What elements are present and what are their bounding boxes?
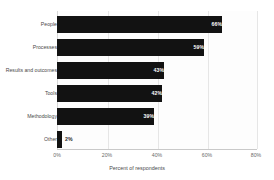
bar-series: People 66% Processes 59% Results and out… bbox=[0, 0, 274, 180]
bar-row: Other 2% bbox=[0, 131, 274, 148]
x-tick-20: 20% bbox=[102, 152, 112, 158]
category-label-methodology: Methodology bbox=[27, 108, 57, 125]
bar-value-processes: 59% bbox=[57, 39, 208, 56]
bar-row: Methodology 39% bbox=[0, 108, 274, 125]
bar-value-tools: 42% bbox=[57, 85, 166, 102]
bar-row: Tools 42% bbox=[0, 85, 274, 102]
category-label-tools: Tools bbox=[45, 85, 57, 102]
x-tick-40: 40% bbox=[152, 152, 162, 158]
category-label-processes: Processes bbox=[33, 39, 57, 56]
bar-row: Results and outcomes 43% bbox=[0, 62, 274, 79]
bar-chart: People 66% Processes 59% Results and out… bbox=[0, 0, 274, 180]
category-label-results-and-outcomes: Results and outcomes bbox=[6, 62, 57, 79]
bar-row: Processes 59% bbox=[0, 39, 274, 56]
bar-value-other: 2% bbox=[62, 131, 85, 148]
x-tick-60: 60% bbox=[202, 152, 212, 158]
category-label-other: Other bbox=[44, 131, 57, 148]
bar-row: People 66% bbox=[0, 16, 274, 33]
bar-value-methodology: 39% bbox=[57, 108, 158, 125]
x-tick-0: 0% bbox=[53, 152, 61, 158]
bar-value-people: 66% bbox=[57, 16, 226, 33]
x-axis-title: Percent of respondents bbox=[0, 165, 274, 171]
bar-value-results-and-outcomes: 43% bbox=[57, 62, 168, 79]
category-label-people: People bbox=[41, 16, 57, 33]
x-tick-80: 80% bbox=[251, 152, 261, 158]
